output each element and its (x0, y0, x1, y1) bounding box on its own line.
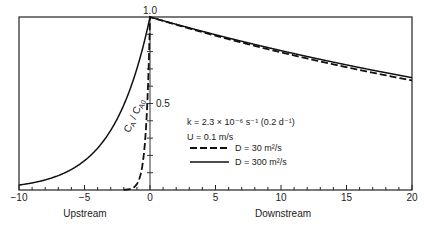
x-tick-label: 5 (213, 192, 219, 203)
x-tick-label: −5 (79, 192, 91, 203)
x-tick-label: 15 (341, 192, 353, 203)
legend-label-d30: D = 30 m²/s (235, 143, 282, 153)
annotation-k: k = 2.3 × 10⁻⁶ s⁻¹ (0.2 d⁻¹) (187, 117, 295, 127)
series-group (19, 17, 412, 190)
series-line-d300 (19, 17, 412, 185)
legend-label-d300: D = 300 m²/s (235, 157, 287, 167)
x-ticks: −10−505101520 (11, 185, 418, 203)
x-tick-label: −10 (11, 192, 28, 203)
y-tick-label: 1.0 (143, 5, 157, 16)
x-tick-label: 20 (406, 192, 418, 203)
chart: −10−505101520 1.00.5 Upstream Downstream… (0, 0, 424, 229)
x-label-downstream: Downstream (255, 208, 311, 219)
plot-frame (19, 17, 412, 190)
x-tick-label: 10 (275, 192, 287, 203)
x-label-upstream: Upstream (63, 208, 106, 219)
annotation-u: U = 0.1 m/s (187, 132, 234, 142)
x-tick-label: 0 (147, 192, 153, 203)
y-tick-label: 0.5 (156, 98, 170, 109)
